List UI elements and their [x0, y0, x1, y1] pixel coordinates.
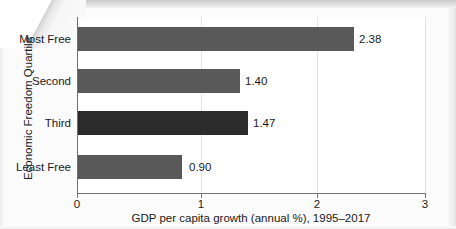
value-label-second: 1.40 — [245, 75, 267, 87]
bar-least-free[interactable] — [78, 155, 182, 179]
value-label-third: 1.47 — [253, 117, 275, 129]
x-axis-line — [77, 193, 426, 194]
x-tick-label-3: 3 — [415, 198, 435, 211]
bar-third[interactable] — [78, 111, 248, 135]
x-axis-title: GDP per capita growth (annual %), 1995–2… — [77, 212, 425, 225]
x-tick-label-2: 2 — [307, 198, 327, 211]
y-tick-label-most-free: Most Free — [0, 33, 71, 45]
bar-second[interactable] — [78, 69, 240, 93]
bar-most-free[interactable] — [78, 27, 354, 51]
x-tick-label-1: 1 — [191, 198, 211, 211]
x-tick-label-0: 0 — [67, 198, 87, 211]
value-label-most-free: 2.38 — [359, 33, 381, 45]
chart-page: Most Free Second Third Least Free 2.38 1… — [0, 0, 456, 229]
y-tick-label-least-free: Least Free — [0, 161, 71, 173]
y-tick-label-third: Third — [0, 117, 71, 129]
gridline-3 — [425, 17, 426, 193]
y-axis-title: Economic Freedom Quartile — [22, 14, 35, 204]
y-tick-label-second: Second — [0, 75, 71, 87]
value-label-least-free: 0.90 — [189, 161, 211, 173]
bar-chart: Most Free Second Third Least Free 2.38 1… — [0, 0, 456, 229]
